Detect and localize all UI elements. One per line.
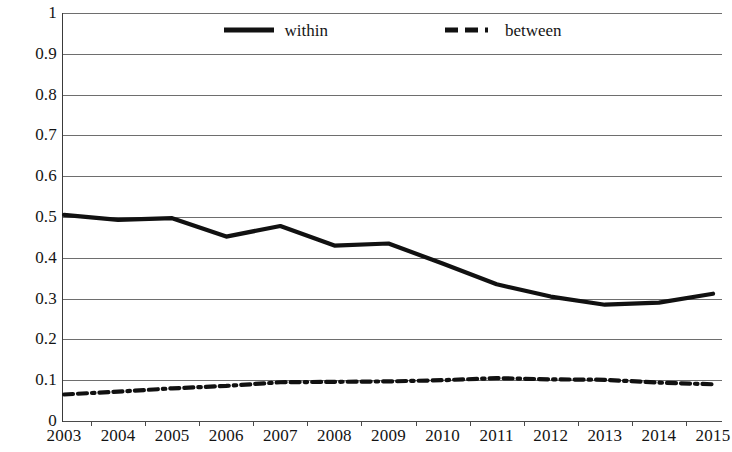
y-axis-tick-label: 0.6 xyxy=(5,167,57,184)
y-axis-tick-label: 0.7 xyxy=(5,126,57,143)
y-axis-tick-label: 0.4 xyxy=(5,249,57,266)
x-axis-tick-label: 2005 xyxy=(155,426,190,446)
x-axis-tick-label: 2010 xyxy=(425,426,460,446)
line-chart: 00.10.20.30.40.50.60.70.80.91 2003200420… xyxy=(0,0,732,452)
y-axis-tick-label: 0.1 xyxy=(5,371,57,388)
y-axis-tick-label: 0.9 xyxy=(5,45,57,62)
legend-item-within: within xyxy=(223,22,327,39)
x-axis-tick-label: 2003 xyxy=(47,426,82,446)
solid-line-swatch xyxy=(223,24,275,36)
series-line-between xyxy=(64,378,713,394)
x-axis-tick-label: 2011 xyxy=(480,426,514,446)
y-axis-tick-label: 0.2 xyxy=(5,330,57,347)
x-axis-tick-label: 2007 xyxy=(263,426,298,446)
x-axis-labels: 2003200420052006200720082009201020112012… xyxy=(63,426,722,452)
x-axis-tick-label: 2012 xyxy=(533,426,568,446)
y-axis-tick-label: 0.3 xyxy=(5,290,57,307)
legend-item-between: between xyxy=(444,22,562,39)
y-axis-labels: 00.10.20.30.40.50.60.70.80.91 xyxy=(0,0,57,452)
y-axis-tick-label: 1 xyxy=(5,4,57,21)
y-axis-tick-label: 0.8 xyxy=(5,86,57,103)
x-axis-tick-label: 2004 xyxy=(101,426,136,446)
series-layer xyxy=(63,13,722,421)
chart-legend: within between xyxy=(63,14,722,46)
x-axis-tick-label: 2014 xyxy=(642,426,677,446)
legend-label-between: between xyxy=(505,22,562,39)
series-line-within xyxy=(64,215,713,305)
x-axis-tick-label: 2015 xyxy=(696,426,731,446)
legend-label-within: within xyxy=(284,22,327,39)
plot-area xyxy=(63,13,722,421)
x-axis-tick-label: 2013 xyxy=(587,426,622,446)
x-axis-tick-label: 2006 xyxy=(209,426,244,446)
dashed-line-swatch xyxy=(444,24,496,36)
x-axis-tick-label: 2009 xyxy=(371,426,406,446)
x-axis-tick-label: 2008 xyxy=(317,426,352,446)
y-axis-tick-label: 0.5 xyxy=(5,208,57,225)
